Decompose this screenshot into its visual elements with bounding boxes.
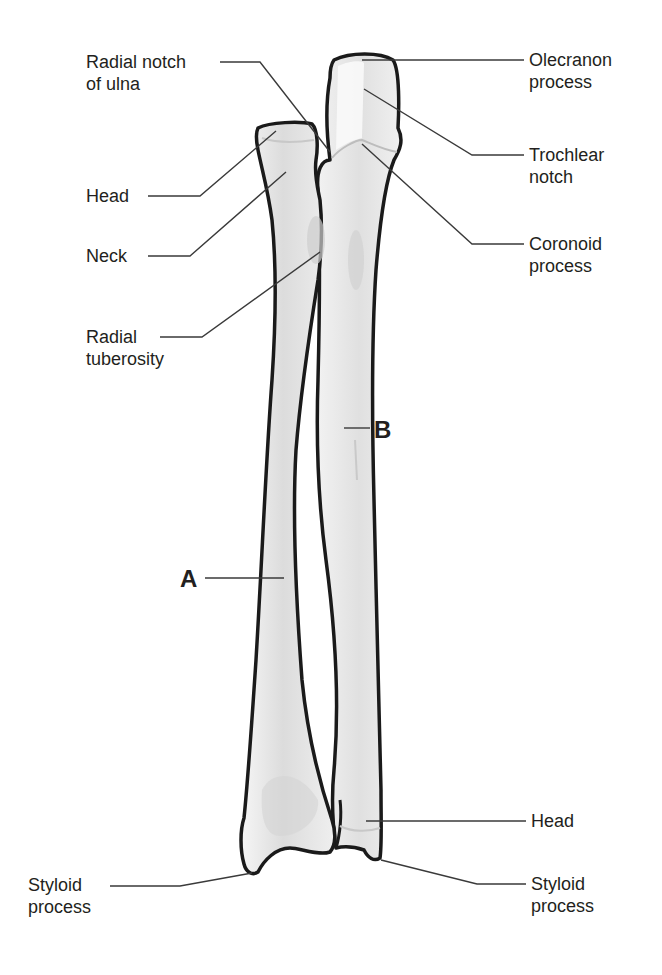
label-ulna-head: Head — [531, 810, 574, 832]
ulna-shaft-shade — [348, 230, 364, 290]
label-radial-notch-of-ulna: Radial notch of ulna — [86, 51, 186, 95]
forearm-bones-diagram: Radial notch of ulna Head Neck Radial tu… — [0, 0, 662, 975]
label-line: Styloid — [531, 873, 594, 895]
label-radius-styloid-process: Styloid process — [28, 874, 91, 918]
label-olecranon-process: Olecranon process — [529, 49, 612, 93]
label-line: tuberosity — [86, 348, 164, 370]
olecranon-highlight — [336, 61, 364, 150]
label-line: Olecranon — [529, 49, 612, 71]
label-line: Head — [86, 185, 129, 207]
ulna-outline — [317, 54, 401, 860]
label-line: notch — [529, 166, 604, 188]
label-line: Trochlear — [529, 144, 604, 166]
leader-radius-styloid — [110, 873, 252, 886]
leader-ulna-styloid — [381, 860, 526, 884]
label-letter-a: A — [180, 566, 197, 592]
label-letter-b: B — [374, 417, 391, 443]
label-line: Head — [531, 810, 574, 832]
label-ulna-styloid-process: Styloid process — [531, 873, 594, 917]
label-line: Radial — [86, 326, 164, 348]
label-line: Neck — [86, 245, 127, 267]
label-line: Coronoid — [529, 233, 602, 255]
label-line: process — [529, 71, 612, 93]
label-line: process — [529, 255, 602, 277]
label-radial-tuberosity: Radial tuberosity — [86, 326, 164, 370]
label-coronoid-process: Coronoid process — [529, 233, 602, 277]
label-line: Radial notch — [86, 51, 186, 73]
label-radius-head: Head — [86, 185, 129, 207]
label-line: Styloid — [28, 874, 91, 896]
label-line: process — [28, 896, 91, 918]
label-trochlear-notch: Trochlear notch — [529, 144, 604, 188]
label-line: process — [531, 895, 594, 917]
label-neck: Neck — [86, 245, 127, 267]
radial-tuberosity-shape — [307, 216, 325, 264]
ulna-bone — [317, 54, 401, 860]
label-line: of ulna — [86, 73, 186, 95]
